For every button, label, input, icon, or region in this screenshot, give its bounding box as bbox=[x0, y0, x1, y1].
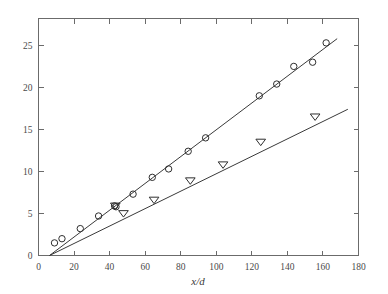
marker-triangles-6 bbox=[310, 114, 320, 120]
y-tick-label-5: 25 bbox=[23, 41, 33, 51]
y-tick-label-3: 15 bbox=[23, 125, 33, 135]
data-markers-group bbox=[51, 40, 329, 246]
marker-circles-1 bbox=[59, 235, 65, 241]
fit-lines-group bbox=[50, 39, 348, 256]
scatter-plot-svg: 020406080100120140160180 0510152025 x/d bbox=[0, 0, 388, 294]
marker-circles-13 bbox=[291, 63, 297, 69]
axis-title-denominator: d bbox=[199, 275, 205, 287]
x-tick-label-6: 120 bbox=[245, 262, 260, 272]
y-tick-label-0: 0 bbox=[28, 251, 33, 261]
fit-line-circles bbox=[50, 39, 338, 256]
marker-triangles-1 bbox=[119, 211, 129, 217]
y-tick-label-1: 5 bbox=[28, 209, 33, 219]
x-tick-label-1: 20 bbox=[69, 262, 79, 272]
y-tick-label-2: 10 bbox=[23, 167, 33, 177]
marker-triangles-4 bbox=[218, 162, 228, 168]
marker-circles-15 bbox=[323, 40, 329, 46]
x-tick-label-4: 80 bbox=[176, 262, 186, 272]
marker-triangles-5 bbox=[256, 139, 266, 145]
x-axis-tick-labels: 020406080100120140160180 bbox=[36, 262, 366, 272]
marker-circles-0 bbox=[51, 240, 57, 246]
chart-figure: 020406080100120140160180 0510152025 x/d bbox=[0, 0, 388, 294]
x-tick-label-0: 0 bbox=[36, 262, 41, 272]
fit-line-triangles bbox=[50, 109, 348, 255]
x-tick-label-8: 160 bbox=[316, 262, 331, 272]
plot-frame bbox=[39, 19, 359, 256]
y-axis-ticks bbox=[39, 45, 359, 255]
marker-circles-7 bbox=[149, 174, 155, 180]
x-tick-label-7: 140 bbox=[280, 262, 295, 272]
axes-box bbox=[39, 19, 359, 256]
marker-circles-14 bbox=[309, 59, 315, 65]
x-tick-label-2: 40 bbox=[105, 262, 115, 272]
marker-circles-8 bbox=[165, 166, 171, 172]
x-axis-ticks bbox=[39, 19, 359, 256]
marker-circles-2 bbox=[77, 225, 83, 231]
marker-triangles-3 bbox=[185, 178, 195, 184]
y-tick-label-4: 20 bbox=[23, 83, 33, 93]
x-tick-label-9: 180 bbox=[351, 262, 366, 272]
y-axis-tick-labels: 0510152025 bbox=[23, 41, 33, 261]
x-tick-label-3: 60 bbox=[140, 262, 150, 272]
x-axis-title: x/d bbox=[190, 275, 205, 287]
x-tick-label-5: 100 bbox=[209, 262, 224, 272]
